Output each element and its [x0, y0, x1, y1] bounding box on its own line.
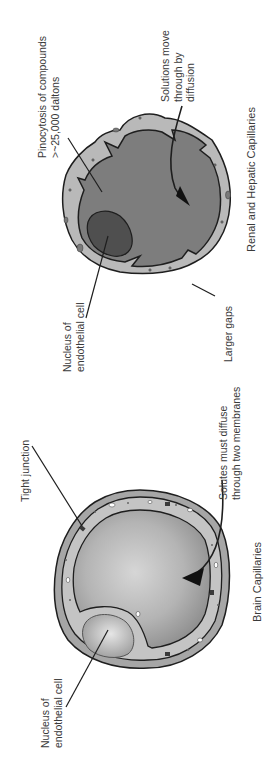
- tight-junction-label: Tight junction: [19, 440, 32, 502]
- brain-nucleus-label-line2: endothelial cell: [52, 679, 65, 748]
- tight-junction-leader-line: [32, 446, 82, 526]
- solutes-label: Solutes must diffuse through two membran…: [217, 387, 242, 500]
- larger-gaps-text: Larger gaps: [222, 306, 235, 362]
- diffusion-label: Solutions move through by diffusion: [159, 30, 197, 102]
- pinocytosis-label-line1: Pinocytosis of compounds: [36, 36, 49, 158]
- diffusion-label-line2: through by: [172, 30, 185, 102]
- pinocytosis-label: Pinocytosis of compounds >~25,000 dalton…: [36, 36, 61, 158]
- pinocytosis-label-line2: >~25,000 daltons: [49, 36, 62, 158]
- brain-nucleus-label: Nucleus of endothelial cell: [39, 679, 64, 748]
- brain-capillaries-title: Brain Capillaries: [251, 542, 264, 622]
- larger-gaps-label: Larger gaps: [222, 306, 235, 362]
- renal-nucleus-label: Nucleus of endothelial cell: [61, 303, 86, 372]
- brain-nucleus-label-line1: Nucleus of: [39, 679, 52, 748]
- brain-capillaries-title-text: Brain Capillaries: [251, 542, 264, 622]
- tight-junction-text: Tight junction: [19, 440, 32, 502]
- solutes-label-line1: Solutes must diffuse: [217, 387, 230, 500]
- solutes-label-line2: through two membranes: [230, 387, 243, 500]
- renal-hepatic-title-text: Renal and Hepatic Capillaries: [245, 107, 258, 252]
- renal-nucleus-label-line1: Nucleus of: [61, 303, 74, 372]
- diffusion-label-line1: Solutions move: [159, 30, 172, 102]
- diffusion-label-line3: diffusion: [184, 30, 197, 102]
- larger-gaps-leader-line: [192, 284, 215, 296]
- brain-capillary: [32, 446, 230, 707]
- renal-hepatic-title: Renal and Hepatic Capillaries: [245, 107, 258, 252]
- renal-hepatic-capillary: [63, 106, 231, 318]
- capillary-comparison-figure: Pinocytosis of compounds >~25,000 dalton…: [0, 0, 275, 778]
- renal-nucleus-label-line2: endothelial cell: [74, 303, 87, 372]
